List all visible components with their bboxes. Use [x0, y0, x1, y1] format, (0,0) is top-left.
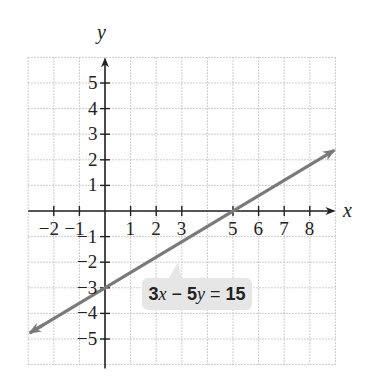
axes [28, 59, 333, 368]
y-axis-label: y [97, 22, 106, 42]
x-tick-label: 5 [228, 219, 238, 238]
y-tick-label: −1 [77, 227, 97, 246]
x-tick-label: −2 [39, 219, 59, 238]
y-tick-label: 2 [88, 150, 98, 169]
y-tick-label: −2 [77, 252, 97, 271]
y-tick-label: 1 [88, 175, 98, 194]
x-tick-label: 6 [254, 219, 264, 238]
x-tick-label: 1 [126, 219, 136, 238]
eq-coef-b: 5 [187, 284, 197, 305]
coordinate-plane [0, 0, 374, 387]
y-tick-label: −5 [77, 329, 97, 348]
x-tick-label: 3 [177, 219, 187, 238]
y-tick-label: 5 [88, 73, 98, 92]
x-tick-label: 2 [151, 219, 161, 238]
equation-label: 3x − 5y = 15 [142, 278, 252, 310]
eq-var-y: y [197, 284, 205, 305]
x-tick-label: 7 [279, 219, 289, 238]
eq-equals: = [205, 284, 226, 305]
x-axis-label: x [343, 200, 352, 220]
eq-minus: − [166, 284, 187, 305]
x-tick-label: 8 [305, 219, 315, 238]
eq-coef-a: 3 [148, 284, 158, 305]
y-tick-label: −4 [77, 303, 97, 322]
eq-var-x: x [158, 284, 166, 305]
y-tick-label: 4 [88, 99, 98, 118]
eq-constant: 15 [226, 284, 246, 305]
y-tick-label: −3 [77, 278, 97, 297]
y-tick-label: 3 [88, 124, 98, 143]
line-arrow-left [30, 325, 44, 333]
